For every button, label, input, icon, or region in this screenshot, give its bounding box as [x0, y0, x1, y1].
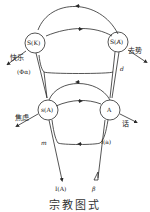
node-label-a: A: [107, 107, 111, 113]
religious-schema-diagram: [0, 0, 150, 212]
label-d: d: [120, 66, 124, 72]
top-inner-arc: [46, 29, 112, 37]
bottom-outer-arc: [49, 84, 110, 101]
label-speech: 话: [122, 121, 129, 128]
label-pleasure: 快乐: [10, 55, 24, 62]
label-anxiety: 焦虑: [15, 115, 29, 122]
node-label-s-k: S(K): [27, 40, 40, 46]
label-i-a: I(A): [55, 186, 66, 192]
label-phi-alpha: (Φα): [17, 69, 31, 75]
top-outer-arc: [38, 6, 118, 34]
label-castration: 去势: [128, 48, 142, 55]
label-i-a-small: i(a): [101, 139, 111, 145]
node-label-s-a-barred: S(A̸): [110, 39, 123, 45]
node-label-s-of-a: s(A): [41, 107, 53, 113]
label-m: m: [41, 140, 47, 146]
label-beta: β: [92, 186, 95, 192]
diagram-caption: 宗教图式: [0, 196, 150, 212]
